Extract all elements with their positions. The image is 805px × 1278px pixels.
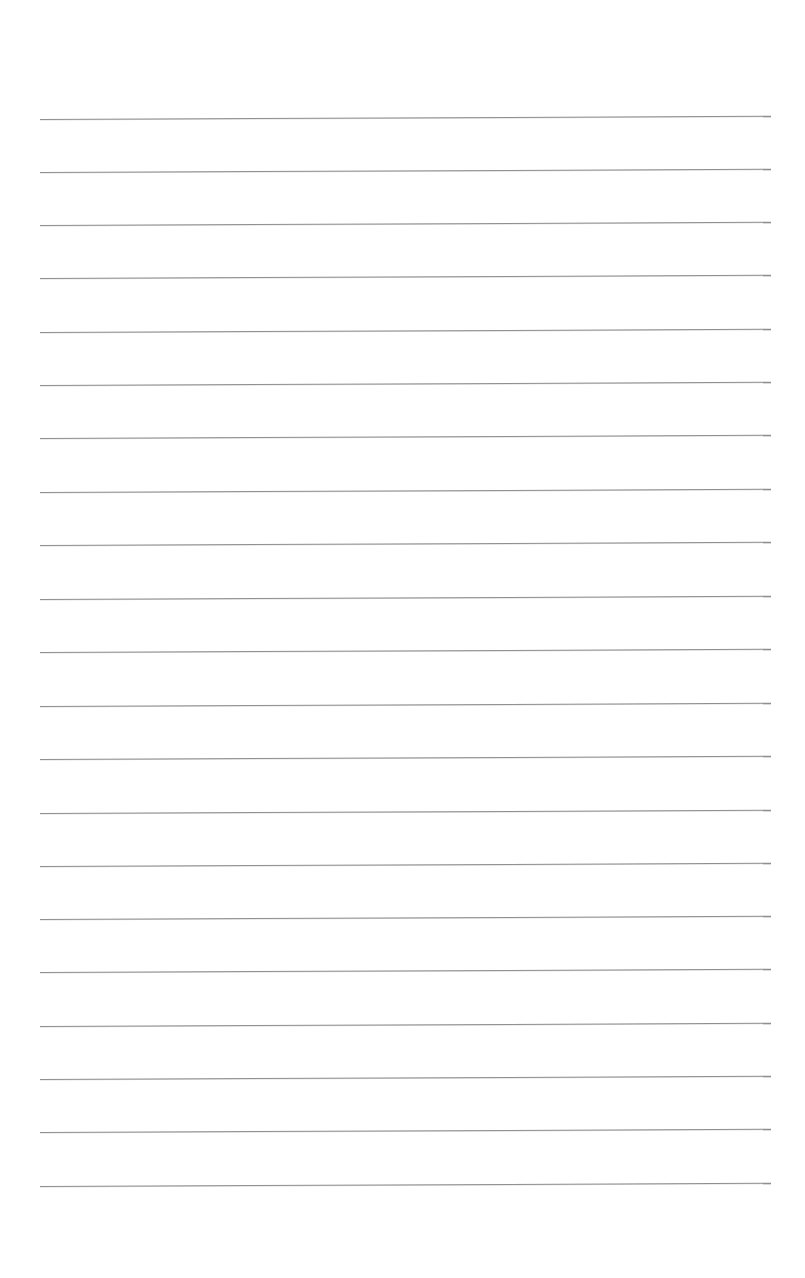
ruled-line — [40, 222, 771, 226]
ruled-line — [40, 275, 771, 279]
ruled-line — [40, 810, 771, 814]
ruled-line — [40, 329, 771, 333]
ruled-line — [40, 489, 771, 493]
ruled-line — [40, 756, 771, 760]
ruled-line — [40, 1023, 771, 1027]
ruled-line — [40, 1076, 771, 1080]
ruled-line — [40, 1129, 771, 1133]
ruled-line — [40, 596, 771, 600]
ruled-line — [40, 916, 771, 920]
ruled-line — [40, 649, 771, 653]
ruled-line — [40, 542, 771, 546]
ruled-line — [40, 435, 771, 439]
ruled-line — [40, 969, 771, 973]
ruled-page — [0, 0, 805, 1278]
ruled-line — [40, 1183, 771, 1187]
ruled-line — [40, 703, 771, 707]
ruled-line — [40, 382, 771, 386]
ruled-line — [40, 169, 771, 173]
ruled-line — [40, 863, 771, 867]
ruled-line — [40, 116, 771, 120]
